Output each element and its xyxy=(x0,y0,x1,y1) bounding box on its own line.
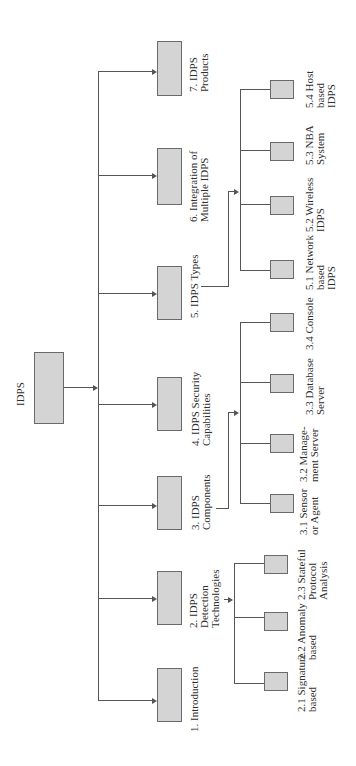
connector-3-1 xyxy=(240,503,270,504)
label-5-3: 5.3 NBA System xyxy=(304,125,326,165)
label-3-3: 3.3 Database Server xyxy=(304,358,326,415)
label-5-4: 5.4 Host based IDPS xyxy=(304,71,337,108)
trunk-line xyxy=(98,71,99,701)
sub-connector-5-vert xyxy=(228,191,229,287)
connector-2-3 xyxy=(234,563,264,564)
connector-3-2 xyxy=(240,443,270,444)
connector-2 xyxy=(98,598,153,599)
connector-6 xyxy=(98,175,153,176)
connector-5-2 xyxy=(240,204,270,205)
connector-1 xyxy=(98,700,153,701)
box-5-4 xyxy=(270,80,294,99)
box-section-7 xyxy=(157,41,182,96)
connector-3-3 xyxy=(240,382,270,383)
arrow-icon xyxy=(234,189,239,195)
sub-connector-3-vert xyxy=(228,412,229,509)
box-3-2 xyxy=(270,434,294,453)
connector-4 xyxy=(98,404,153,405)
label-2-1: 2.1 Signature based xyxy=(296,653,318,712)
label-section-6: 6. Integration of Multiple IDPS xyxy=(188,151,210,222)
root-connector xyxy=(64,387,94,388)
sub-trunk-2 xyxy=(234,563,235,683)
box-section-6 xyxy=(157,148,182,205)
connector-3-4 xyxy=(240,322,270,323)
label-3-4: 3.4 Console xyxy=(304,297,315,350)
label-3-2: 3.2 Manage- ment Server xyxy=(298,426,320,482)
box-5-3 xyxy=(270,142,294,161)
idps-tree-diagram: IDPS 7. IDPS Products 6. Integration of … xyxy=(0,0,356,766)
label-3-1: 3.1 Sensor or Agent xyxy=(298,489,320,535)
label-section-4: 4. IDPS Security Capabilities xyxy=(190,372,212,446)
label-2-3: 2.3 Stateful Protocol Analysis xyxy=(296,549,329,600)
box-3-1 xyxy=(270,494,294,513)
box-3-3 xyxy=(270,374,294,393)
box-section-1 xyxy=(157,668,182,722)
label-5-1: 5.1 Network based IDPS xyxy=(304,235,337,290)
connector-5-1 xyxy=(240,270,270,271)
box-section-3 xyxy=(157,476,182,530)
label-section-1: 1. Introduction xyxy=(189,667,200,732)
connector-5-3 xyxy=(240,150,270,151)
sub-connector-5 xyxy=(201,286,229,287)
box-2-3 xyxy=(264,555,288,574)
sub-trunk-3 xyxy=(240,322,241,503)
connector-7 xyxy=(98,71,153,72)
label-section-2: 2. IDPS Detection Technologies xyxy=(188,570,221,629)
label-section-3: 3. IDPS Components xyxy=(190,474,212,530)
label-section-7: 7. IDPS Products xyxy=(188,54,210,93)
label-5-2: 5.2 Wireless IDPS xyxy=(304,178,326,232)
connector-5 xyxy=(98,293,153,294)
arrow-icon xyxy=(234,410,239,416)
label-section-5: 5. IDPS Types xyxy=(189,254,200,318)
sub-trunk-5 xyxy=(240,89,241,271)
box-5-1 xyxy=(270,260,294,279)
arrow-icon xyxy=(228,597,233,603)
box-section-5 xyxy=(157,266,182,320)
box-2-2 xyxy=(264,612,288,631)
connector-5-4 xyxy=(240,89,270,90)
connector-2-1 xyxy=(234,683,264,684)
box-3-4 xyxy=(270,313,294,332)
connector-3 xyxy=(98,505,153,506)
connector-2-2 xyxy=(234,617,264,618)
box-section-4 xyxy=(157,377,182,431)
label-2-2: 2.2 Anomaly based xyxy=(296,603,318,660)
root-box-idps xyxy=(34,352,64,424)
box-5-2 xyxy=(270,196,294,215)
root-label: IDPS xyxy=(15,382,26,406)
box-2-1 xyxy=(264,672,288,691)
box-section-2 xyxy=(157,571,182,625)
